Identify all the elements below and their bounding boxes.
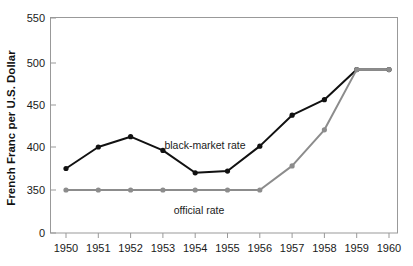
data-point — [96, 187, 101, 192]
data-point — [193, 170, 198, 175]
x-axis-ticks — [66, 233, 389, 238]
x-tick-label: 1955 — [215, 242, 239, 254]
data-point — [128, 134, 133, 139]
y-tick-label: 500 — [27, 57, 45, 69]
data-point — [322, 127, 327, 132]
x-tick-label: 1959 — [344, 242, 368, 254]
x-tick-label: 1957 — [280, 242, 304, 254]
data-point — [193, 187, 198, 192]
data-point — [63, 187, 68, 192]
chart-container: 550 500 450 400 350 0 French Franc per U… — [0, 0, 413, 266]
data-point — [257, 187, 262, 192]
data-point — [96, 144, 101, 149]
y-axis-title: French Franc per U.S. Dollar — [5, 50, 17, 206]
data-point — [386, 67, 391, 72]
plot-frame — [51, 18, 398, 234]
series-label-official: official rate — [174, 204, 225, 216]
y-tick-label: 350 — [27, 184, 45, 196]
x-tick-label: 1960 — [377, 242, 401, 254]
y-tick-label: 450 — [27, 99, 45, 111]
data-point — [322, 97, 327, 102]
x-tick-label: 1958 — [312, 242, 336, 254]
data-point — [225, 168, 230, 173]
y-tick-labels: 550 500 450 400 350 0 — [27, 12, 45, 239]
data-point — [290, 113, 295, 118]
y-tick-label: 550 — [27, 12, 45, 24]
y-tick-label: 0 — [39, 227, 45, 239]
data-point — [63, 166, 68, 171]
data-point — [290, 163, 295, 168]
data-point — [160, 187, 165, 192]
data-point — [225, 187, 230, 192]
x-tick-label: 1953 — [151, 242, 175, 254]
series-label-black-market: black-market rate — [164, 139, 245, 151]
x-tick-label: 1956 — [248, 242, 272, 254]
data-point — [128, 187, 133, 192]
x-tick-labels: 1950 1951 1952 1953 1954 1955 1956 1957 … — [54, 242, 401, 254]
x-tick-label: 1951 — [86, 242, 110, 254]
x-tick-label: 1952 — [118, 242, 142, 254]
x-tick-label: 1950 — [54, 242, 78, 254]
data-point — [257, 144, 262, 149]
x-tick-label: 1954 — [183, 242, 207, 254]
data-point — [354, 67, 359, 72]
y-tick-label: 400 — [27, 141, 45, 153]
line-chart: 550 500 450 400 350 0 French Franc per U… — [0, 0, 413, 266]
